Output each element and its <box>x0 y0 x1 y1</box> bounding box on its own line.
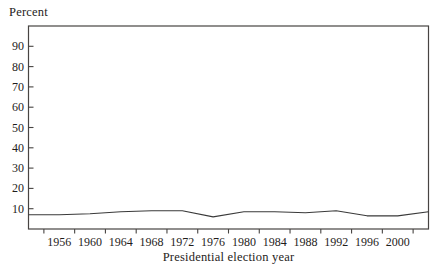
x-tick-label: 1972 <box>170 235 194 249</box>
plot-frame <box>29 26 429 229</box>
x-tick-label: 1984 <box>263 235 287 249</box>
x-tick-label: 1968 <box>140 235 164 249</box>
x-tick-label: 1976 <box>201 235 225 249</box>
y-tick-label: 80 <box>12 60 24 74</box>
y-tick-label: 70 <box>12 80 24 94</box>
y-tick-label: 10 <box>12 202 24 216</box>
chart: Percent 10203040506070809019561960196419… <box>0 0 440 275</box>
data-line <box>29 211 429 217</box>
y-tick-label: 20 <box>12 181 24 195</box>
y-tick-label: 90 <box>12 39 24 53</box>
x-tick-label: 1992 <box>324 235 348 249</box>
plot-svg: 1020304050607080901956196019641968197219… <box>0 0 440 275</box>
y-tick-label: 40 <box>12 141 24 155</box>
y-tick-label: 60 <box>12 100 24 114</box>
x-tick-label: 1988 <box>293 235 317 249</box>
x-axis-title: Presidential election year <box>28 250 429 265</box>
y-tick-label: 50 <box>12 121 24 135</box>
x-tick-label: 1996 <box>355 235 379 249</box>
y-tick-label: 30 <box>12 161 24 175</box>
x-tick-label: 1964 <box>109 235 133 249</box>
x-tick-label: 1980 <box>232 235 256 249</box>
x-tick-label: 1960 <box>78 235 102 249</box>
x-tick-label: 2000 <box>386 235 410 249</box>
x-tick-label: 1956 <box>47 235 71 249</box>
